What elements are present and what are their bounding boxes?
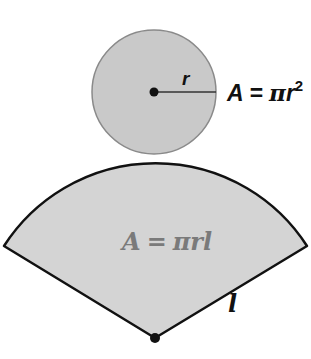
circle-formula-eq: =: [250, 80, 263, 106]
circle-formula-lhs: A: [226, 80, 244, 106]
sector-formula-eq: =: [147, 227, 167, 256]
sector-formula-lhs: A: [120, 227, 141, 256]
circle-area-formula: A=πr2: [226, 77, 303, 106]
sector-formula-pi: π: [172, 227, 191, 256]
sector-area-formula: A=πrl: [120, 227, 212, 256]
circle-formula-exponent: 2: [295, 77, 303, 94]
sector-apex-point: [150, 333, 160, 343]
circle-center-point: [150, 88, 159, 97]
circle-formula-pi: π: [268, 79, 287, 106]
cone-surface-area-diagram: A=πrl l r A=πr2: [0, 0, 311, 359]
lateral-sector: A=πrl l: [4, 163, 307, 343]
slant-height-label: l: [228, 289, 237, 318]
base-circle: r A=πr2: [92, 30, 303, 154]
sector-formula-l: l: [203, 227, 212, 256]
